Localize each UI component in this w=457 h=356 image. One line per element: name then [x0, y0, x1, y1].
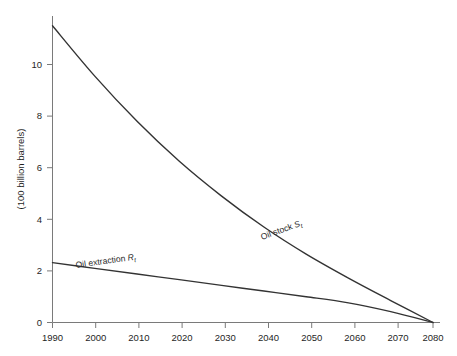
x-tick-label: 2060 — [344, 332, 365, 343]
x-tick-label: 2020 — [172, 332, 193, 343]
oil-depletion-chart: 0 2 4 6 8 10 1990 2000 2010 2020 2030 20… — [0, 0, 457, 356]
x-tick-label: 1990 — [42, 332, 63, 343]
y-axis-tick-labels: 0 2 4 6 8 10 — [31, 59, 42, 328]
chart-canvas: 0 2 4 6 8 10 1990 2000 2010 2020 2030 20… — [0, 0, 457, 356]
x-tick-label: 2040 — [258, 332, 279, 343]
x-tick-label: 2050 — [301, 332, 322, 343]
y-tick-label: 0 — [37, 317, 42, 328]
x-tick-label: 2070 — [388, 332, 409, 343]
series-label-text: Oil extraction — [75, 253, 128, 270]
series-label-subscript: t — [134, 256, 137, 263]
y-tick-label: 8 — [37, 110, 42, 121]
series-line-oil-stock — [53, 26, 434, 323]
y-tick-label: 6 — [37, 162, 42, 173]
series-label-text: Oil stock — [259, 220, 296, 241]
y-tick-label: 2 — [37, 265, 42, 276]
y-axis-title: (100 billion barrels) — [15, 129, 26, 210]
x-axis-ticks — [53, 323, 434, 329]
y-tick-label: 10 — [31, 59, 42, 70]
series-label-oil-extraction: Oil extraction Rt — [75, 252, 137, 272]
x-tick-label: 2030 — [215, 332, 236, 343]
x-tick-label: 2000 — [85, 332, 106, 343]
y-axis-ticks — [47, 65, 53, 323]
x-tick-label: 2010 — [128, 332, 149, 343]
svg-text:Oil extraction Rt: Oil extraction Rt — [75, 252, 137, 272]
x-tick-label: 2080 — [422, 332, 443, 343]
y-tick-label: 4 — [37, 214, 42, 225]
x-axis-tick-labels: 1990 2000 2010 2020 2030 2040 2050 2060 … — [42, 332, 444, 343]
